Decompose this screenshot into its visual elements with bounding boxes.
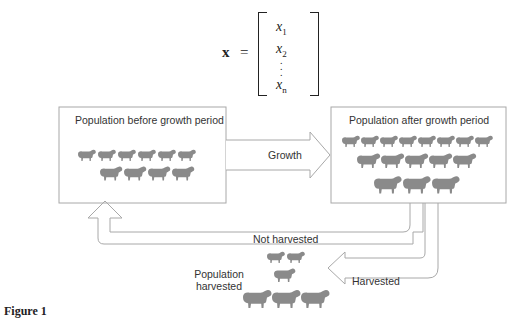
population-flow-diagram [0, 0, 518, 325]
sheep-group-before [78, 150, 196, 181]
after-box-title: Population after growth period [349, 114, 489, 126]
not-harvested-label: Not harvested [253, 233, 318, 245]
harvested-label: Harvested [352, 275, 400, 287]
sheep-group-after [342, 136, 493, 194]
sheep-group-harvested [243, 252, 330, 308]
figure-caption: Figure 1 [4, 304, 47, 319]
growth-label: Growth [268, 149, 302, 161]
before-box-title: Population before growth period [75, 114, 224, 126]
population-harvested-label: Populationharvested [193, 268, 245, 292]
